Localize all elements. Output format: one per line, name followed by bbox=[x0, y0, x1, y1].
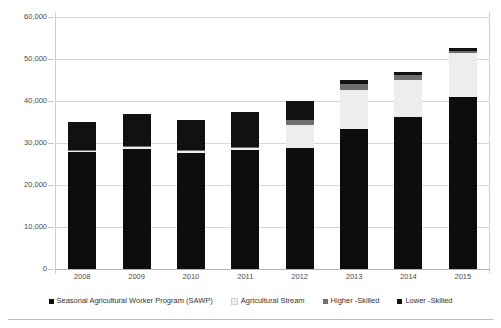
x-tick-label-2008: 2008 bbox=[59, 273, 105, 281]
stacked-bar-chart: 010,00020,00030,00040,00050,00060,000 20… bbox=[0, 0, 501, 328]
legend-label: Agricultural Stream bbox=[241, 297, 305, 305]
bar-stack bbox=[231, 112, 259, 269]
bar-segment[interactable] bbox=[68, 152, 96, 269]
footer-divider bbox=[8, 319, 493, 320]
bar-stack bbox=[177, 120, 205, 269]
bar-segment[interactable] bbox=[177, 153, 205, 269]
bar-segment[interactable] bbox=[340, 90, 368, 129]
bar-segment[interactable] bbox=[286, 101, 314, 120]
legend-swatch-icon bbox=[397, 299, 402, 304]
y-tick-mark-60000 bbox=[48, 17, 54, 18]
bar-segment[interactable] bbox=[231, 150, 259, 269]
bar-stack bbox=[286, 101, 314, 269]
x-tick-label-2010: 2010 bbox=[168, 273, 214, 281]
legend-item-1[interactable]: Agricultural Stream bbox=[231, 297, 305, 305]
bar-segment[interactable] bbox=[449, 53, 477, 97]
bars-layer bbox=[55, 17, 490, 269]
legend-item-2[interactable]: Higher -Skilled bbox=[323, 297, 380, 305]
bar-stack bbox=[394, 72, 422, 269]
y-tick-label-50000: 50,000 bbox=[0, 55, 47, 63]
y-tick-mark-10000 bbox=[48, 227, 54, 228]
x-tick-label-2015: 2015 bbox=[440, 273, 486, 281]
y-tick-mark-20000 bbox=[48, 185, 54, 186]
legend-swatch-icon bbox=[49, 299, 54, 304]
x-tick-label-2012: 2012 bbox=[277, 273, 323, 281]
x-axis-line bbox=[55, 269, 490, 270]
legend-label: Higher -Skilled bbox=[331, 297, 380, 305]
y-tick-label-60000: 60,000 bbox=[0, 13, 47, 21]
bar-segment[interactable] bbox=[68, 122, 96, 150]
y-tick-mark-40000 bbox=[48, 101, 54, 102]
legend-item-3[interactable]: Lower -Skilled bbox=[397, 297, 452, 305]
legend-label: Seasonal Agricultural Worker Program (SA… bbox=[57, 297, 213, 305]
legend-swatch-icon bbox=[231, 298, 238, 305]
legend-label: Lower -Skilled bbox=[405, 297, 452, 305]
bar-segment[interactable] bbox=[177, 120, 205, 150]
bar-segment[interactable] bbox=[394, 117, 422, 269]
bar-segment[interactable] bbox=[449, 97, 477, 269]
x-tick-label-2009: 2009 bbox=[114, 273, 160, 281]
bar-segment[interactable] bbox=[123, 149, 151, 269]
y-tick-mark-0 bbox=[48, 269, 54, 270]
bar-stack bbox=[123, 114, 151, 269]
bar-segment[interactable] bbox=[394, 80, 422, 118]
y-tick-label-10000: 10,000 bbox=[0, 223, 47, 231]
bar-segment[interactable] bbox=[340, 129, 368, 269]
bar-stack bbox=[340, 80, 368, 269]
y-tick-label-40000: 40,000 bbox=[0, 97, 47, 105]
bar-segment[interactable] bbox=[286, 148, 314, 269]
y-tick-label-0: 0 bbox=[0, 265, 47, 273]
x-tick-label-2011: 2011 bbox=[222, 273, 268, 281]
bar-stack bbox=[449, 48, 477, 269]
y-tick-mark-50000 bbox=[48, 59, 54, 60]
legend-swatch-icon bbox=[323, 299, 328, 304]
bar-stack bbox=[68, 122, 96, 269]
y-tick-label-30000: 30,000 bbox=[0, 139, 47, 147]
x-tick-label-2014: 2014 bbox=[385, 273, 431, 281]
bar-segment[interactable] bbox=[286, 125, 314, 148]
bar-segment[interactable] bbox=[123, 114, 151, 147]
y-tick-mark-30000 bbox=[48, 143, 54, 144]
bar-segment[interactable] bbox=[231, 112, 259, 147]
chart-legend: Seasonal Agricultural Worker Program (SA… bbox=[0, 293, 501, 309]
x-tick-label-2013: 2013 bbox=[331, 273, 377, 281]
y-tick-label-20000: 20,000 bbox=[0, 181, 47, 189]
legend-item-0[interactable]: Seasonal Agricultural Worker Program (SA… bbox=[49, 297, 213, 305]
